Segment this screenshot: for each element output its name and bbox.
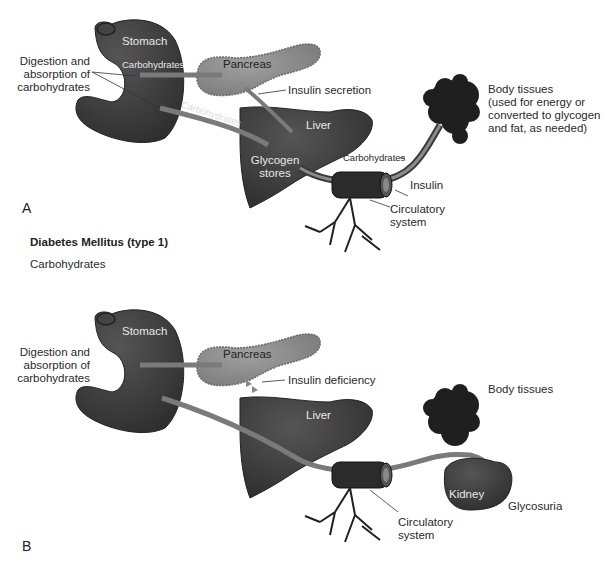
circulatory-tube-b-icon xyxy=(332,462,392,488)
digestion-b-line-2: absorption of xyxy=(14,359,90,372)
digestion-b-line-3: carbohydrates xyxy=(14,372,90,385)
glycogen-line-2: stores xyxy=(245,167,305,180)
label-liver-b: Liver xyxy=(306,409,331,422)
insulin-deficiency-arrows-icon xyxy=(246,380,258,393)
label-circulatory-a: Circulatory system xyxy=(390,203,445,229)
label-insulin: Insulin xyxy=(410,179,443,192)
body-tissues-line-4: and fat, as needed) xyxy=(488,122,601,135)
circulatory-b-line-1: Circulatory xyxy=(398,516,453,529)
label-body-tissues-a: Body tissues (used for energy or convert… xyxy=(488,83,601,135)
label-pancreas-a: Pancreas xyxy=(223,58,272,71)
label-liver-a: Liver xyxy=(306,119,331,132)
digestion-line-1: Digestion and xyxy=(14,55,90,68)
panel-letter-a: A xyxy=(22,200,31,216)
body-tissues-line-1: Body tissues xyxy=(488,83,601,96)
glycogen-line-1: Glycogen xyxy=(245,154,305,167)
digestion-b-line-1: Digestion and xyxy=(14,346,90,359)
label-circulatory-b: Circulatory system xyxy=(398,516,453,542)
body-tissues-line-2: (used for energy or xyxy=(488,96,601,109)
label-carbohydrates-vessel: Carbohydrates xyxy=(343,152,405,163)
section-subheading: Carbohydrates xyxy=(30,258,105,271)
capillaries-a-icon xyxy=(305,198,380,252)
label-digestion-b: Digestion and absorption of carbohydrate… xyxy=(14,346,90,385)
label-insulin-secretion: Insulin secretion xyxy=(288,84,371,97)
label-pancreas-b: Pancreas xyxy=(223,348,272,361)
circulatory-b-line-2: system xyxy=(398,529,453,542)
label-body-tissues-b: Body tissues xyxy=(488,383,553,396)
digestion-line-2: absorption of xyxy=(14,68,90,81)
panel-letter-b: B xyxy=(22,538,31,554)
label-digestion-a: Digestion and absorption of carbohydrate… xyxy=(14,55,90,94)
label-stomach-a: Stomach xyxy=(122,35,167,48)
label-glycosuria: Glycosuria xyxy=(508,500,562,513)
label-stomach-b: Stomach xyxy=(122,325,167,338)
capillaries-b-icon xyxy=(305,488,380,542)
kidney-icon xyxy=(444,458,511,510)
section-heading: Diabetes Mellitus (type 1) xyxy=(30,236,168,248)
label-carbohydrates-stomach-a: Carbohydrates xyxy=(122,59,184,70)
label-insulin-deficiency: Insulin deficiency xyxy=(288,374,376,387)
circulatory-tube-a-icon xyxy=(332,172,392,198)
circulatory-a-line-1: Circulatory xyxy=(390,203,445,216)
panel-b-graphics xyxy=(76,310,512,542)
label-glycogen-stores: Glycogen stores xyxy=(245,154,305,180)
circulatory-a-line-2: system xyxy=(390,216,445,229)
digestion-line-3: carbohydrates xyxy=(14,81,90,94)
label-kidney: Kidney xyxy=(449,488,484,501)
body-tissues-b-icon xyxy=(423,384,480,446)
body-tissues-line-3: converted to glycogen xyxy=(488,109,601,122)
